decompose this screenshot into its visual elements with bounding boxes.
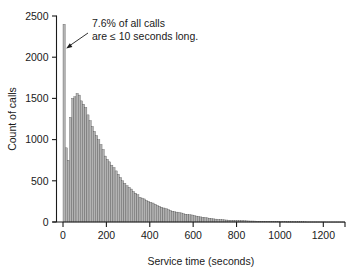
histogram-bar	[83, 104, 85, 222]
histogram-bar	[98, 140, 100, 222]
histogram-bar	[126, 186, 128, 222]
histogram-bar	[180, 213, 182, 222]
histogram-bar	[161, 207, 163, 222]
histogram-bar	[128, 187, 130, 222]
histogram-bar	[117, 174, 119, 222]
x-tick-label: 1200	[312, 229, 336, 241]
histogram-bar	[163, 208, 165, 222]
histogram-bar	[70, 117, 72, 222]
histogram-bar	[87, 115, 89, 222]
histogram-bar	[148, 201, 150, 222]
histogram-bar	[80, 101, 82, 222]
x-axis-title: Service time (seconds)	[147, 255, 254, 267]
histogram-bar	[200, 217, 202, 222]
histogram-bar	[124, 183, 126, 222]
histogram-bar	[91, 126, 93, 222]
histogram-bar	[130, 189, 132, 222]
y-tick-label: 1000	[25, 133, 49, 145]
histogram-bar	[165, 209, 167, 222]
histogram-bar	[111, 165, 113, 222]
histogram-bar	[191, 215, 193, 222]
histogram-bar	[189, 215, 191, 222]
histogram-bar	[208, 218, 210, 222]
histogram-bar	[202, 217, 204, 222]
histogram-bar	[174, 212, 176, 222]
histogram-bar	[193, 216, 195, 222]
x-tick-label: 1000	[268, 229, 292, 241]
histogram-bar	[176, 212, 178, 222]
histogram-bar	[74, 97, 76, 222]
histogram-bar	[156, 206, 158, 222]
histogram-bar	[143, 199, 145, 222]
histogram-bar	[106, 159, 108, 222]
histogram-bar	[137, 195, 139, 222]
histogram-bar	[89, 121, 91, 222]
annotation-line-2: are ≤ 10 seconds long.	[92, 30, 198, 42]
histogram-figure: 020040060080010001200 050010001500200025…	[0, 0, 355, 279]
histogram-bar	[63, 24, 65, 222]
x-tick-label: 800	[228, 229, 246, 241]
histogram-bar	[104, 156, 106, 222]
histogram-bar	[72, 98, 74, 222]
x-tick-label: 0	[60, 229, 66, 241]
histogram-bar	[119, 178, 121, 223]
histogram-bar	[195, 216, 197, 222]
histogram-bar	[122, 181, 124, 222]
histogram-bar	[182, 214, 184, 222]
y-tick-label: 0	[43, 216, 49, 228]
histogram-bar	[96, 135, 98, 222]
y-tick-label: 500	[31, 175, 49, 187]
y-tick-label: 1500	[25, 92, 49, 104]
histogram-bar	[102, 149, 104, 222]
histogram-bar	[145, 201, 147, 222]
histogram-bar	[178, 213, 180, 222]
histogram-bar	[167, 210, 169, 222]
histogram-bar	[76, 93, 78, 222]
histogram-bar	[198, 216, 200, 222]
service-time-histogram: 020040060080010001200 050010001500200025…	[0, 0, 355, 279]
histogram-bar	[169, 210, 171, 222]
histogram-bar	[139, 197, 141, 222]
x-tick-label: 600	[184, 229, 202, 241]
histogram-bar	[115, 171, 117, 222]
histogram-bar	[100, 145, 102, 222]
histogram-bar	[65, 148, 67, 222]
x-tick-label: 200	[98, 229, 116, 241]
y-tick-label: 2000	[25, 51, 49, 63]
histogram-bar	[67, 160, 69, 222]
histogram-bar	[171, 211, 173, 222]
histogram-bar	[158, 206, 160, 222]
histogram-bar	[150, 202, 152, 222]
annotation-line-1: 7.6% of all calls	[92, 17, 165, 29]
histogram-bar	[141, 198, 143, 222]
histogram-bar	[184, 214, 186, 222]
histogram-bar	[152, 203, 154, 222]
y-axis-title: Count of calls	[6, 87, 18, 151]
histogram-bar	[85, 107, 87, 222]
histogram-bar	[135, 193, 137, 222]
histogram-bar	[93, 131, 95, 222]
histogram-bar	[204, 218, 206, 222]
histogram-bar	[132, 192, 134, 222]
histogram-bar	[187, 215, 189, 222]
histogram-bar	[154, 204, 156, 222]
histogram-bar	[206, 218, 208, 222]
histogram-bar	[78, 95, 80, 222]
y-tick-label: 2500	[25, 10, 49, 22]
histogram-bar	[109, 162, 111, 222]
histogram-bar	[113, 168, 115, 222]
x-tick-label: 400	[141, 229, 159, 241]
